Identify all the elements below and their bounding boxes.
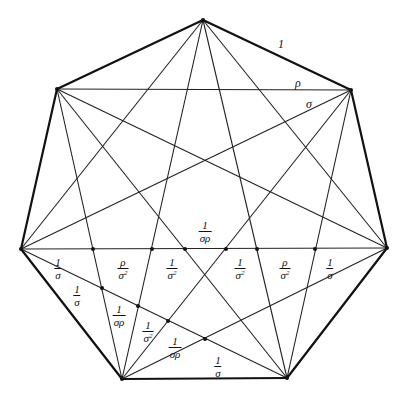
fraction-numerator: 1 — [54, 257, 62, 268]
fraction: ρσ2 — [118, 257, 129, 281]
fraction-denominator: σ — [214, 366, 221, 379]
horizontal-segment-label: ρσ2 — [280, 255, 291, 281]
intersection-dot — [255, 247, 259, 251]
fraction-denominator: σ2 — [167, 268, 178, 281]
vertex-dot — [55, 87, 59, 91]
fraction-numerator: 1 — [236, 257, 244, 268]
short-diagonal-label: ρ — [295, 77, 301, 89]
fraction-numerator: 1 — [171, 336, 179, 347]
vertex-dot — [349, 88, 353, 92]
fraction: 1σρ — [113, 304, 126, 328]
heptagon-diagonal — [21, 90, 351, 249]
fraction: 1σ — [73, 284, 81, 308]
fraction: 1σ — [214, 355, 222, 379]
intersection-dot — [203, 337, 207, 341]
heptagon-diagonal — [57, 89, 387, 248]
horizontal-segment-label: 1σ — [54, 255, 62, 281]
fraction-denominator: σ2 — [118, 268, 129, 281]
horizontal-segment-label: ρσ2 — [118, 255, 129, 281]
intersection-dot — [136, 304, 140, 308]
heptagon-diagonal — [21, 20, 203, 249]
horizontal-segment-label: 1σρ — [199, 218, 212, 244]
horizontal-segment-label: 1σ2 — [235, 255, 246, 281]
vertex-dot — [201, 18, 205, 22]
heptagon-side — [21, 249, 122, 379]
intersection-dot — [313, 247, 317, 251]
fraction-numerator: 1 — [201, 220, 209, 231]
fraction-numerator: 1 — [214, 355, 222, 366]
diagonal-segment-label: 1σρ — [113, 302, 126, 328]
horizontal-segment-label: 1σ2 — [167, 255, 178, 281]
fraction-denominator: σ — [326, 268, 333, 281]
fraction: 1σ2 — [167, 257, 178, 281]
fraction-denominator: σ — [54, 268, 61, 281]
fraction-denominator: σρ — [199, 231, 212, 244]
vertex-dot — [120, 377, 124, 381]
fraction: 1σ — [326, 257, 334, 281]
vertex-dot — [385, 246, 389, 250]
fraction-numerator: 1 — [168, 257, 176, 268]
diagonal-segment-label: 1σρ — [169, 334, 182, 360]
fraction: 1σ2 — [235, 257, 246, 281]
fraction-denominator: σ2 — [280, 268, 291, 281]
vertex-dot — [19, 247, 23, 251]
heptagon-diagonals — [21, 20, 387, 379]
fraction-denominator: σ2 — [143, 331, 154, 344]
fraction: 1σρ — [169, 336, 182, 360]
intersection-dot — [150, 247, 154, 251]
heptagon-diagonal — [122, 90, 351, 379]
fraction-denominator: σ2 — [235, 268, 246, 281]
intersection-dot — [166, 319, 170, 323]
fraction-denominator: σρ — [169, 347, 182, 360]
fraction: 1σρ — [199, 220, 212, 244]
heptagon-sides — [21, 20, 387, 379]
fraction-numerator: ρ — [281, 257, 288, 268]
diagonal-segment-label: 1σ2 — [143, 318, 154, 344]
fraction-denominator: σρ — [113, 315, 126, 328]
heptagon-diagonal — [203, 20, 387, 248]
heptagon-diagonal — [203, 20, 287, 378]
fraction: 1σ2 — [143, 320, 154, 344]
heptagon-diagram — [0, 0, 408, 400]
heptagon-side — [21, 89, 57, 249]
fraction-numerator: 1 — [144, 320, 152, 331]
fraction-numerator: ρ — [119, 257, 126, 268]
fraction-denominator: σ — [73, 295, 80, 308]
fraction-numerator: 1 — [326, 257, 334, 268]
fraction: 1σ — [54, 257, 62, 281]
heptagon-diagonal — [57, 89, 351, 90]
vertex-dot — [285, 376, 289, 380]
intersection-dot — [91, 247, 95, 251]
fraction-numerator: 1 — [73, 284, 81, 295]
side-length-label: 1 — [278, 38, 284, 50]
fraction-numerator: 1 — [115, 304, 123, 315]
intersection-dot — [224, 247, 228, 251]
diagonal-segment-label: 1σ — [73, 282, 81, 308]
heptagon-side — [122, 378, 287, 379]
diagonal-segment-label: 1σ — [214, 353, 222, 379]
heptagon-side — [57, 20, 203, 89]
heptagon-side — [351, 90, 387, 248]
heptagon-side — [203, 20, 351, 90]
horizontal-segment-label: 1σ — [326, 255, 334, 281]
heptagon-diagonal — [122, 248, 387, 379]
intersection-dot — [100, 286, 104, 290]
fraction: ρσ2 — [280, 257, 291, 281]
heptagon-diagonal — [21, 248, 387, 249]
heptagon-diagonal — [122, 20, 203, 379]
intersection-dot — [183, 247, 187, 251]
long-diagonal-label: σ — [306, 98, 312, 110]
intersection-dots — [19, 18, 389, 381]
